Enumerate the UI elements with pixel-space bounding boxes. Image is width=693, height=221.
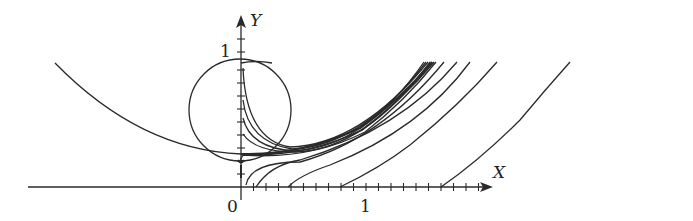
diagram-canvas: X Y 0 1 1 [0, 0, 693, 221]
y-unit-label: 1 [220, 41, 231, 61]
curve-family [241, 62, 444, 185]
origin-label: 0 [227, 196, 238, 216]
x-axis-curves [256, 62, 570, 187]
axis-cusp [238, 160, 244, 178]
x-axis-label: X [491, 162, 506, 182]
x-unit-label: 1 [360, 196, 371, 216]
left-parabola-curve [55, 63, 241, 154]
tangent-circle [189, 59, 291, 161]
y-axis-label: Y [250, 10, 263, 30]
